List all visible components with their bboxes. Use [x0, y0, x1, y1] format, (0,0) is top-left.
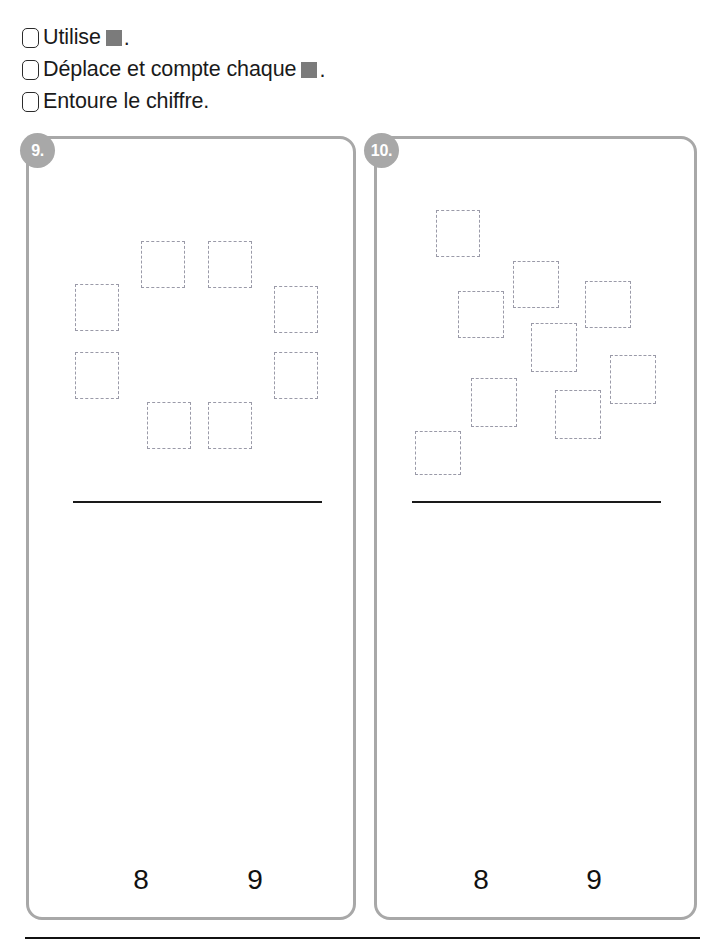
counter-square[interactable] — [415, 431, 461, 475]
instruction-text-entoure: Entoure le chiffre. — [43, 91, 209, 113]
counter-area-10 — [377, 139, 694, 917]
instruction-row-utilise: Utilise . — [22, 22, 582, 54]
gray-square-icon — [301, 62, 317, 78]
counter-square[interactable] — [531, 323, 577, 372]
counter-square[interactable] — [610, 355, 656, 404]
instruction-text-utilise: Utilise — [43, 27, 101, 49]
counter-square[interactable] — [141, 241, 185, 288]
exercise-number-badge-9: 9. — [20, 133, 55, 168]
answer-line-10[interactable] — [412, 501, 661, 503]
counter-square[interactable] — [513, 261, 559, 308]
choice-digit-10-a[interactable]: 8 — [464, 866, 498, 894]
counter-square[interactable] — [75, 352, 119, 399]
counter-square[interactable] — [208, 241, 252, 288]
instruction-row-entoure: Entoure le chiffre. — [22, 86, 582, 118]
counter-square[interactable] — [274, 352, 318, 399]
instruction-list: Utilise . Déplace et compte chaque . Ent… — [22, 22, 582, 118]
exercise-number-badge-10: 10. — [364, 133, 399, 168]
answer-line-9[interactable] — [73, 501, 322, 503]
choice-digit-9-b[interactable]: 9 — [238, 866, 272, 894]
counter-square[interactable] — [585, 281, 631, 328]
counter-square[interactable] — [75, 284, 119, 331]
instruction-checkbox-entoure[interactable] — [22, 92, 39, 112]
instruction-checkbox-utilise[interactable] — [22, 28, 39, 48]
instruction-checkbox-deplace[interactable] — [22, 60, 39, 80]
counter-square[interactable] — [208, 402, 252, 449]
counter-square[interactable] — [436, 210, 480, 257]
counter-square[interactable] — [274, 286, 318, 333]
exercise-panel-9 — [26, 136, 356, 920]
choice-digit-10-b[interactable]: 9 — [577, 866, 611, 894]
instruction-row-deplace: Déplace et compte chaque . — [22, 54, 582, 86]
counter-square[interactable] — [458, 291, 504, 338]
counter-square[interactable] — [555, 390, 601, 439]
instruction-text-deplace: Déplace et compte chaque — [43, 59, 296, 81]
counter-square[interactable] — [147, 402, 191, 449]
instruction-period-utilise: . — [124, 26, 130, 51]
instruction-period-deplace: . — [319, 58, 325, 83]
page-bottom-rule — [25, 937, 700, 939]
exercise-panel-10 — [374, 136, 697, 920]
gray-square-icon — [106, 30, 122, 46]
counter-area-9 — [29, 139, 353, 917]
choice-digit-9-a[interactable]: 8 — [124, 866, 158, 894]
counter-square[interactable] — [471, 378, 517, 427]
